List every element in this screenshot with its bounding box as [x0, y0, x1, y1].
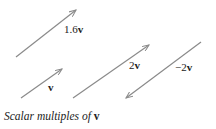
arrow-v [21, 69, 62, 98]
label-v: v [48, 82, 54, 93]
figure-caption: Scalar multiples of v [4, 110, 100, 122]
label-neg-2v: −2v [175, 62, 192, 73]
label-1-6v: 1.6v [64, 24, 83, 35]
label-2v: 2v [129, 60, 140, 71]
